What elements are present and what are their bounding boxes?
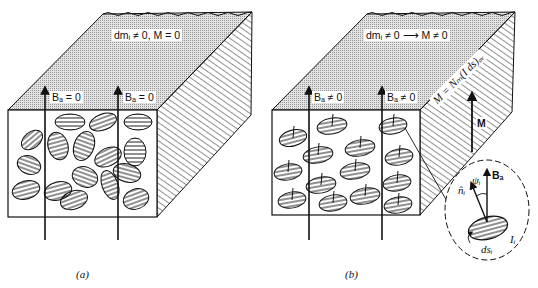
panel-b-top-label: dmᵢ ≠ 0 ⟶ M ≠ 0 [364,29,450,41]
panel-a-field-label-left: Bₐ = 0 [50,91,83,103]
panel-b-block [272,12,529,260]
inset-normal-label: n̂ᵢ [458,184,465,196]
magnetization-label: M [476,117,487,129]
inset-current-label: Iᵢ [510,233,515,245]
panel-a-field-label-right: Bₐ = 0 [123,91,156,103]
panel-b-field-label-right: Bₐ ≠ 0 [385,91,417,103]
inset-angle-label: ψᵢ [472,174,481,186]
panel-a-top-label: dmᵢ ≠ 0, M = 0 [112,29,182,41]
panel-b-field-label-left: Bₐ ≠ 0 [312,91,344,103]
magnetization-diagram [0,0,538,288]
panel-b-caption: (b) [345,268,358,280]
inset-area-label: dsᵢ [481,243,493,255]
inset-field-label: Bₐ [492,169,504,181]
panel-a-caption: (a) [76,268,89,280]
panel-a-block [8,12,252,240]
